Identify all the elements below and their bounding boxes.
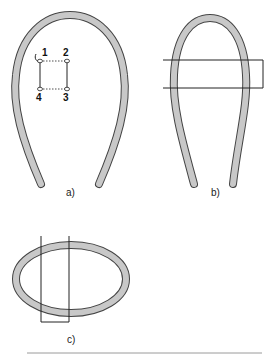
panel-c-label: c) (67, 334, 75, 345)
point-1 (38, 59, 43, 63)
point-label-2: 2 (63, 47, 69, 58)
panel-a-label: a) (66, 187, 75, 198)
point-4 (38, 87, 43, 91)
point-label-4: 4 (36, 92, 42, 103)
point-label-3: 3 (63, 92, 69, 103)
figure-canvas: 1 2 3 4 a) b) c) (0, 0, 275, 355)
panel-b-label: b) (211, 187, 220, 198)
elliptical-ring (16, 245, 126, 313)
point-3 (65, 87, 70, 91)
point-2 (65, 59, 70, 63)
horseshoe-loop-b (174, 18, 247, 184)
panel-b: b) (163, 18, 263, 198)
panel-c: c) (16, 236, 126, 345)
point-label-1: 1 (42, 47, 48, 58)
panel-a: 1 2 3 4 a) (15, 15, 125, 198)
